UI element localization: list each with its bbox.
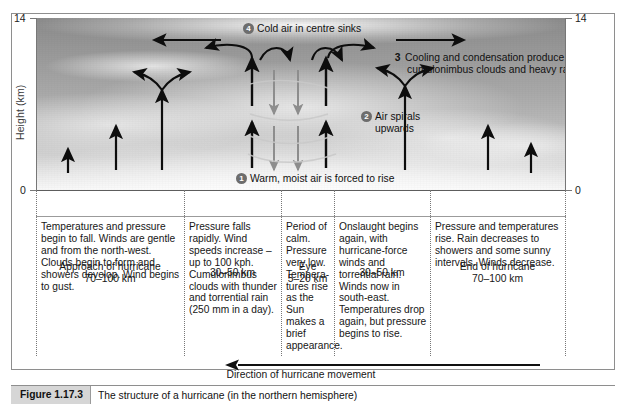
airflow-arrows (36, 18, 566, 190)
table-cell-4: Pressure and temperatures rise. Rain dec… (430, 217, 565, 356)
y-axis-title: Height (km) (14, 50, 26, 140)
callout-3: 3Cooling and condensation produce cumulo… (393, 52, 566, 76)
hurricane-phases-table: Approach of hurricane 70–100 km 30–50 km… (36, 190, 566, 356)
callout-3-badge: 3 (393, 52, 402, 63)
callout-2-text: Air spirals (375, 111, 420, 122)
hurricane-cross-section-diagram: 4Cold air in centre sinks 3Cooling and c… (36, 18, 566, 190)
y-tick-label-top-left: 14 (14, 12, 26, 24)
callout-2-text2: upwards (361, 123, 420, 135)
callout-4: 4Cold air in centre sinks (243, 23, 361, 35)
figure-caption: Figure 1.17.3 The structure of a hurrica… (11, 386, 615, 404)
y-tick-bottom-right (566, 190, 572, 191)
table-body-row: Temperatures and pressure begin to fall.… (36, 217, 566, 356)
callout-1-badge: 1 (236, 173, 247, 184)
callout-2-badge: 2 (361, 111, 372, 122)
table-cell-1: Pressure falls rapidly. Wind speeds incr… (184, 217, 281, 356)
y-tick-top-right (566, 18, 572, 19)
callout-1: 1Warm, moist air is forced to rise (236, 173, 394, 185)
table-cell-3: Onslaught begins again, with hurricane-f… (334, 217, 430, 356)
table-cell-2: Period of calm. Pressure very low. Tempe… (281, 217, 334, 356)
y-tick-label-bottom-left: 0 (20, 184, 26, 196)
figure-page: 4Cold air in centre sinks 3Cooling and c… (0, 0, 627, 408)
figure-caption-text: The structure of a hurricane (in the nor… (91, 390, 357, 401)
callout-4-text: Cold air in centre sinks (257, 23, 361, 34)
y-tick-top-left (30, 18, 36, 19)
callout-3-text2: cumulonimbus clouds and heavy rain (393, 64, 566, 76)
y-tick-label-bottom-right: 0 (575, 184, 581, 196)
y-tick-label-top-right: 14 (575, 12, 587, 24)
figure-number: Figure 1.17.3 (11, 386, 91, 404)
callout-2: 2Air spirals upwards (361, 111, 420, 135)
callout-1-text: Warm, moist air is forced to rise (250, 173, 394, 184)
direction-label: Direction of hurricane movement (36, 369, 566, 380)
table-cell-0: Temperatures and pressure begin to fall.… (36, 217, 184, 356)
y-axis-left (36, 18, 37, 190)
y-axis-right (565, 18, 566, 190)
direction-of-movement: Direction of hurricane movement (36, 358, 566, 384)
callout-3-text: Cooling and condensation produce (405, 52, 564, 63)
callout-4-badge: 4 (243, 23, 254, 34)
